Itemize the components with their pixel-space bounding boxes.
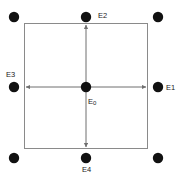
center-node-label: E0 <box>88 97 97 107</box>
electrode-layout-figure: E2 E1 E3 E4 E0 <box>0 0 179 178</box>
left-node <box>9 82 19 92</box>
corner-node-tr <box>153 12 163 22</box>
bottom-node-label: E4 <box>82 165 91 174</box>
center-node <box>81 82 91 92</box>
corner-node-bl <box>9 153 19 163</box>
right-node <box>153 82 163 92</box>
left-node-label: E3 <box>6 70 15 79</box>
corner-node-br <box>153 153 163 163</box>
bottom-node <box>81 153 91 163</box>
right-node-label: E1 <box>166 83 175 92</box>
top-node <box>81 12 91 22</box>
center-node-label-subscript: 0 <box>93 100 96 106</box>
figure-graphics <box>0 0 179 178</box>
corner-node-tl <box>9 12 19 22</box>
top-node-label: E2 <box>98 11 107 20</box>
